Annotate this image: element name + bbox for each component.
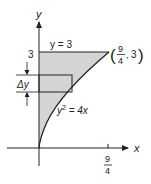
- x-tick-label-numerator: 9: [105, 154, 110, 164]
- svg-text:(: (: [110, 46, 116, 65]
- svg-text:4: 4: [118, 56, 123, 66]
- svg-text:): ): [138, 46, 144, 65]
- point-label: ( 9 4 , 3 ): [110, 44, 144, 66]
- delta-y-label: Δy: [16, 79, 30, 90]
- y-axis-label: y: [35, 8, 43, 20]
- svg-text:3: 3: [131, 49, 137, 60]
- svg-text:,: ,: [126, 50, 129, 60]
- shaded-region: [39, 52, 109, 148]
- area-diagram: y x 3 9 4 y = 3 y2 = 4x ( 9 4 , 3 ) Δy: [0, 0, 151, 184]
- parabola-label: y2 = 4x: [56, 104, 89, 116]
- x-tick-label-denominator: 4: [105, 166, 110, 176]
- svg-text:9: 9: [118, 44, 123, 54]
- line-label-y-equals-3: y = 3: [50, 39, 72, 50]
- x-axis-label: x: [133, 142, 140, 154]
- y-tick-label-3: 3: [28, 49, 34, 60]
